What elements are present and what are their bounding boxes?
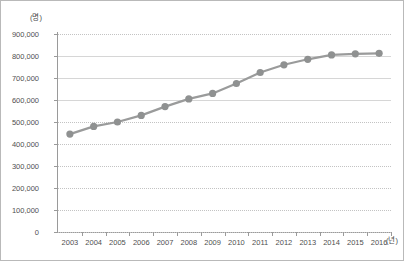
y-axis-tick-label: 400,000 <box>12 140 39 149</box>
data-point-marker <box>352 50 359 57</box>
data-point-marker <box>280 61 287 68</box>
data-point-marker <box>138 112 145 119</box>
chart-figure: (명) (년) 900,000800,000700,000600,000500,… <box>0 0 404 261</box>
x-axis-tick-label: 2007 <box>157 238 174 247</box>
data-point-marker <box>66 131 73 138</box>
x-axis-tick-label: 2008 <box>180 238 197 247</box>
y-axis-tick-label: 800,000 <box>12 52 39 61</box>
x-axis-tick-mark <box>272 232 273 236</box>
x-axis-tick-label: 2011 <box>252 238 268 247</box>
x-axis-tick-label: 2009 <box>204 238 221 247</box>
x-axis-tick-mark <box>320 232 321 236</box>
plot-area: 900,000800,000700,000600,000500,000400,0… <box>58 34 391 232</box>
x-axis-unit-label: (년) <box>386 234 398 245</box>
x-axis-tick-mark <box>367 232 368 236</box>
x-axis-tick-label: 2006 <box>133 238 150 247</box>
data-point-marker <box>209 90 216 97</box>
x-axis-tick-label: 2016 <box>371 238 388 247</box>
data-point-marker <box>304 56 311 63</box>
x-axis-tick-label: 2013 <box>299 238 316 247</box>
x-axis-tick-mark <box>296 232 297 236</box>
data-point-marker <box>328 51 335 58</box>
x-axis-tick-label: 2012 <box>276 238 293 247</box>
x-axis-tick-mark <box>129 232 130 236</box>
x-axis-tick-mark <box>106 232 107 236</box>
y-axis-tick-label: 600,000 <box>12 96 39 105</box>
x-axis-tick-label: 2015 <box>347 238 364 247</box>
x-axis-tick-mark <box>82 232 83 236</box>
x-axis-tick-mark <box>153 232 154 236</box>
x-axis-tick-label: 2014 <box>323 238 340 247</box>
x-axis-tick-mark <box>177 232 178 236</box>
data-point-marker <box>161 103 168 110</box>
data-point-marker <box>376 50 383 57</box>
y-axis-tick-label: 300,000 <box>12 162 39 171</box>
x-axis-tick-label: 2005 <box>109 238 126 247</box>
y-axis-unit-label: (명) <box>30 11 42 22</box>
x-axis-tick-mark <box>201 232 202 236</box>
x-axis-tick-mark <box>343 232 344 236</box>
y-axis-tick-label: 200,000 <box>12 184 39 193</box>
data-point-marker <box>114 118 121 125</box>
x-axis-tick-mark <box>391 232 392 236</box>
x-axis-tick-mark <box>225 232 226 236</box>
y-axis-tick-label: 700,000 <box>12 74 39 83</box>
x-axis-tick-label: 2004 <box>85 238 102 247</box>
data-point-marker <box>257 69 264 76</box>
y-axis-tick-label: 500,000 <box>12 118 39 127</box>
data-point-marker <box>185 95 192 102</box>
y-axis-tick-label: 100,000 <box>12 206 39 215</box>
x-axis-tick-label: 2010 <box>228 238 245 247</box>
line-series-svg <box>58 34 391 232</box>
x-axis-tick-mark <box>248 232 249 236</box>
y-axis-tick-label: 0 <box>35 228 39 237</box>
y-axis-tick-mark <box>54 232 58 233</box>
data-point-marker <box>90 123 97 130</box>
series-markers <box>66 50 382 138</box>
x-axis-tick-label: 2003 <box>62 238 79 247</box>
data-point-marker <box>233 80 240 87</box>
y-axis-tick-label: 900,000 <box>12 30 39 39</box>
